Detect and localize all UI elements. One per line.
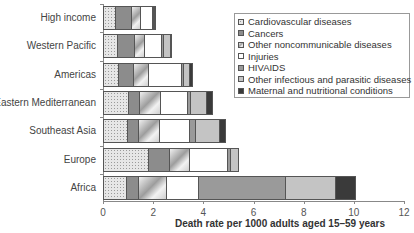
x-tick xyxy=(404,201,405,204)
bar-segment xyxy=(170,148,190,172)
legend-swatch-icon xyxy=(238,30,244,36)
bar-segment xyxy=(128,119,139,143)
x-tick-label: 0 xyxy=(93,207,113,218)
legend-label: Other noncommunicable diseases xyxy=(248,39,392,50)
bar-western-pacific xyxy=(103,34,172,58)
category-label: Europe xyxy=(64,154,96,166)
bar-segment xyxy=(139,119,160,143)
category-label: Americas xyxy=(54,69,96,81)
bar-segment xyxy=(231,148,239,172)
x-tick-label: 6 xyxy=(244,207,264,218)
y-tick xyxy=(100,61,103,62)
legend-item: Other noncommunicable diseases xyxy=(238,39,409,51)
bar-segment xyxy=(160,119,190,143)
bar-segment xyxy=(164,34,172,58)
x-tick xyxy=(203,201,204,204)
legend-item: Injuries xyxy=(238,51,409,63)
legend-swatch-icon xyxy=(238,53,244,59)
bar-segment xyxy=(119,63,134,87)
bar-segment xyxy=(132,6,141,30)
legend-label: Injuries xyxy=(248,51,279,62)
y-tick xyxy=(100,32,103,33)
x-tick-label: 10 xyxy=(344,207,364,218)
y-tick xyxy=(100,89,103,90)
legend: Cardiovascular diseasesCancersOther nonc… xyxy=(234,13,410,98)
y-tick xyxy=(100,146,103,147)
legend-swatch-icon xyxy=(238,42,244,48)
bar-segment xyxy=(139,176,167,200)
legend-item: HIVAIDS xyxy=(238,62,409,74)
bar-segment xyxy=(103,148,149,172)
bar-segment xyxy=(103,91,129,115)
bar-segment xyxy=(220,119,226,143)
legend-swatch-icon xyxy=(238,76,244,82)
category-label: High income xyxy=(40,12,96,24)
x-tick-label: 12 xyxy=(394,207,414,218)
x-tick xyxy=(153,201,154,204)
bar-segment xyxy=(103,176,127,200)
bar-segment xyxy=(191,91,207,115)
bar-segment xyxy=(145,34,163,58)
bar-segment xyxy=(207,91,213,115)
category-label: Eastern Mediterranean xyxy=(0,97,96,109)
bar-segment xyxy=(129,91,140,115)
bar-segment xyxy=(141,6,153,30)
bar-segment xyxy=(155,6,156,30)
legend-label: HIVAIDS xyxy=(248,62,285,73)
x-tick-label: 4 xyxy=(193,207,213,218)
bar-segment xyxy=(167,176,199,200)
bar-segment xyxy=(171,34,172,58)
bar-segment xyxy=(149,63,182,87)
bar-segment xyxy=(199,176,286,200)
x-tick-label: 8 xyxy=(294,207,314,218)
bar-segment xyxy=(336,176,356,200)
legend-item: Other infectious and parasitic diseases xyxy=(238,74,409,86)
legend-label: Other infectious and parasitic diseases xyxy=(248,74,411,85)
legend-swatch-icon xyxy=(238,19,244,25)
legend-item: Cardiovascular diseases xyxy=(238,16,409,28)
bar-segment xyxy=(286,176,336,200)
y-tick xyxy=(100,174,103,175)
x-tick xyxy=(354,201,355,204)
category-label: Africa xyxy=(70,182,96,194)
legend-label: Cardiovascular diseases xyxy=(248,16,352,27)
bar-segment xyxy=(127,176,139,200)
x-tick xyxy=(103,201,104,204)
legend-item: Cancers xyxy=(238,28,409,40)
legend-swatch-icon xyxy=(238,88,244,94)
bar-americas xyxy=(103,63,193,87)
bar-eastern-mediterranean xyxy=(103,91,213,115)
x-axis-title: Death rate per 1000 adults aged 15–59 ye… xyxy=(160,218,400,229)
bar-segment xyxy=(103,119,128,143)
bar-segment xyxy=(103,63,119,87)
bar-segment xyxy=(116,6,132,30)
x-tick xyxy=(254,201,255,204)
legend-label: Maternal and nutritional conditions xyxy=(248,85,393,96)
y-tick xyxy=(100,4,103,5)
bar-segment xyxy=(118,34,135,58)
legend-label: Cancers xyxy=(248,28,283,39)
bar-high-income xyxy=(103,6,156,30)
bar-africa xyxy=(103,176,356,200)
bar-segment xyxy=(103,6,116,30)
bar-segment xyxy=(135,34,145,58)
x-tick xyxy=(304,201,305,204)
bar-segment xyxy=(190,148,228,172)
bar-europe xyxy=(103,148,239,172)
bar-southeast-asia xyxy=(103,119,226,143)
bar-segment xyxy=(140,91,161,115)
category-label: Southeast Asia xyxy=(29,125,96,137)
legend-swatch-icon xyxy=(238,65,244,71)
bar-segment xyxy=(190,63,193,87)
category-label: Western Pacific xyxy=(27,40,96,52)
bar-segment xyxy=(134,63,149,87)
legend-item: Maternal and nutritional conditions xyxy=(238,85,409,97)
bar-segment xyxy=(196,119,220,143)
x-tick-label: 2 xyxy=(143,207,163,218)
bar-segment xyxy=(149,148,170,172)
y-tick xyxy=(100,117,103,118)
bar-segment xyxy=(103,34,118,58)
bar-segment xyxy=(161,91,188,115)
